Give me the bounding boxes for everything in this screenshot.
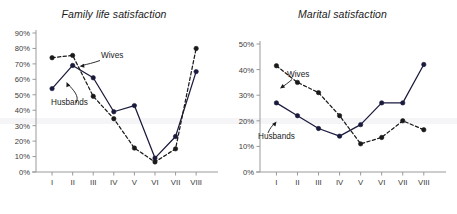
- husbands-label-right: Husbands: [258, 132, 295, 141]
- y-axis-tick-label: 80%: [15, 44, 30, 53]
- y-axis-tick-label: 20%: [239, 117, 254, 126]
- data-point-husbands: [274, 101, 278, 105]
- y-axis-tick-label: 90%: [15, 29, 30, 38]
- chart-panel-family-life: Family life satisfaction 0%10%20%30%40%5…: [0, 0, 228, 214]
- chart-panels: Family life satisfaction 0%10%20%30%40%5…: [0, 0, 457, 214]
- x-axis-tick-label: IV: [110, 178, 118, 187]
- y-axis-tick-label: 40%: [15, 106, 30, 115]
- x-axis-tick-label: I: [51, 178, 53, 187]
- data-point-wives: [379, 135, 383, 139]
- data-point-husbands: [194, 69, 198, 73]
- y-axis-tick-label: 10%: [15, 152, 30, 161]
- wives-label-right: Wives: [287, 70, 309, 79]
- data-point-wives: [112, 117, 116, 121]
- data-point-wives: [70, 53, 74, 57]
- data-point-husbands: [316, 126, 320, 130]
- data-point-wives: [358, 142, 362, 146]
- y-axis-tick-label: 30%: [15, 122, 30, 131]
- data-point-wives: [295, 80, 299, 84]
- marital-satisfaction-chart: 0%10%20%30%40%50%IIIIIIIVVVIVIIVIIIWives…: [228, 0, 457, 214]
- data-point-husbands: [337, 134, 341, 138]
- y-axis-tick-label: 60%: [15, 75, 30, 84]
- data-point-husbands: [358, 122, 362, 126]
- y-axis-tick-label: 50%: [15, 91, 30, 100]
- data-point-wives: [132, 146, 136, 150]
- family-life-satisfaction-chart: 0%10%20%30%40%50%60%70%80%90%IIIIIIIVVVI…: [0, 0, 228, 214]
- y-axis-tick-label: 0%: [19, 168, 30, 177]
- x-axis-tick-label: III: [315, 178, 322, 187]
- wives-arrowhead-right: [280, 84, 285, 89]
- data-point-wives: [153, 160, 157, 164]
- series-line-husbands: [52, 65, 196, 158]
- x-axis-tick-label: I: [275, 178, 277, 187]
- data-point-wives: [91, 94, 95, 98]
- data-point-wives: [173, 147, 177, 151]
- data-point-wives: [194, 46, 198, 50]
- y-axis-tick-label: 20%: [15, 137, 30, 146]
- data-point-wives: [274, 64, 278, 68]
- y-axis-tick-label: 50%: [239, 40, 254, 49]
- data-point-husbands: [295, 113, 299, 117]
- wives-label-left: Wives: [101, 51, 123, 60]
- x-axis-tick-label: IV: [336, 178, 344, 187]
- data-point-wives: [50, 56, 54, 60]
- data-point-wives: [422, 128, 426, 132]
- data-point-husbands: [91, 76, 95, 80]
- x-axis-tick-label: VI: [378, 178, 385, 187]
- x-axis-tick-label: VIII: [418, 178, 430, 187]
- data-point-husbands: [50, 86, 54, 90]
- x-axis-tick-label: V: [358, 178, 364, 187]
- y-axis-tick-label: 70%: [15, 60, 30, 69]
- x-axis-tick-label: II: [295, 178, 299, 187]
- data-point-wives: [401, 119, 405, 123]
- data-point-husbands: [422, 62, 426, 66]
- y-axis-tick-label: 40%: [239, 66, 254, 75]
- x-axis-tick-label: II: [70, 178, 74, 187]
- x-axis-tick-label: VII: [398, 178, 408, 187]
- x-axis-tick-label: V: [132, 178, 138, 187]
- data-point-husbands: [173, 134, 177, 138]
- y-axis-tick-label: 30%: [239, 91, 254, 100]
- wives-annotation-arrow: [82, 61, 100, 66]
- x-axis-tick-label: VII: [171, 178, 181, 187]
- x-axis-tick-label: VI: [151, 178, 158, 187]
- x-axis-tick-label: VIII: [190, 178, 202, 187]
- data-point-husbands: [70, 63, 74, 67]
- data-point-wives: [337, 113, 341, 117]
- data-point-husbands: [379, 101, 383, 105]
- y-axis-tick-label: 0%: [243, 168, 254, 177]
- x-axis-tick-label: III: [90, 178, 97, 187]
- data-point-husbands: [401, 101, 405, 105]
- data-point-husbands: [132, 103, 136, 107]
- y-axis-tick-label: 10%: [239, 142, 254, 151]
- chart-panel-marital: Marital satisfaction 0%10%20%30%40%50%II…: [228, 0, 457, 214]
- husbands-label-left: Husbands: [51, 98, 88, 107]
- data-point-husbands: [112, 110, 116, 114]
- data-point-wives: [316, 90, 320, 94]
- wives-arrowhead-left: [80, 64, 85, 68]
